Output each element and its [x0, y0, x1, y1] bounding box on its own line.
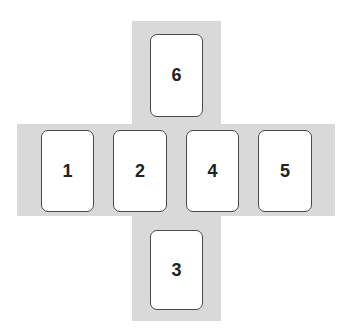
card-bottom: 3 [150, 230, 203, 310]
card-label: 1 [62, 161, 72, 182]
card-label: 3 [171, 260, 181, 281]
card-label: 5 [280, 161, 290, 182]
card-label: 2 [135, 161, 145, 182]
card-row-4: 5 [258, 130, 312, 212]
card-row-3: 4 [186, 130, 239, 212]
card-label: 6 [171, 65, 181, 86]
card-row-1: 1 [41, 130, 94, 212]
card-row-2: 2 [113, 130, 167, 212]
card-top: 6 [150, 34, 203, 117]
card-label: 4 [207, 161, 217, 182]
